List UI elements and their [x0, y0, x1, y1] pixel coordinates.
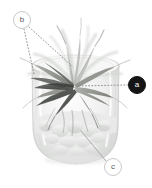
leader-line-b-1	[24, 29, 34, 74]
leader-line-c	[81, 131, 106, 161]
annotated-figure: a b c	[0, 0, 152, 188]
callout-label-c[interactable]: c	[104, 158, 122, 176]
leader-line-b-2	[29, 27, 72, 66]
callout-label-a[interactable]: a	[128, 76, 146, 94]
callout-label-b[interactable]: b	[13, 11, 31, 29]
leader-line-a	[74, 85, 128, 86]
